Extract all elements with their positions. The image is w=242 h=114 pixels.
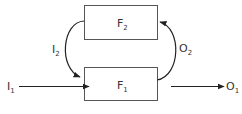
signal-i2-label: I2 [52, 43, 60, 58]
arrow-i2 [65, 21, 84, 77]
signal-o1-label: O1 [226, 80, 239, 95]
signal-o1: O1 [171, 80, 239, 95]
signal-o2: O2 [157, 22, 192, 80]
signal-i1: I1 [7, 80, 89, 95]
signal-o2-label: O2 [179, 42, 192, 57]
signal-i1-label: I1 [7, 80, 15, 95]
block-f1: F1 [85, 68, 158, 101]
signal-i2: I2 [52, 21, 84, 77]
arrow-o2 [157, 22, 176, 80]
feedback-diagram: F2 F1 I1 I2 O2 O1 [0, 0, 242, 114]
block-f2: F2 [85, 6, 158, 40]
